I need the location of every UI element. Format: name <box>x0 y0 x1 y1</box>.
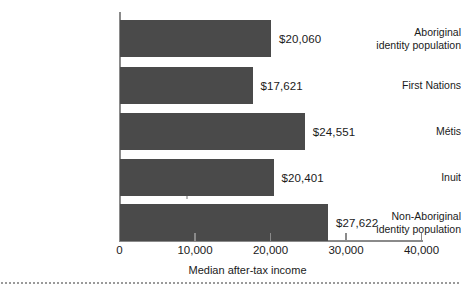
x-axis-tick-mark <box>270 233 272 241</box>
x-axis-title: Median after-tax income <box>0 264 461 276</box>
bar-value-label: $20,060 <box>279 33 321 45</box>
bar <box>120 20 271 57</box>
category-label: Métis <box>349 125 461 138</box>
bar <box>120 204 329 241</box>
x-axis-tick-mark <box>194 233 196 241</box>
category-label: First Nations <box>349 79 461 92</box>
x-axis-title-text: Median after-tax income <box>189 264 307 276</box>
x-axis-tick-label: 40,000 <box>404 244 439 256</box>
bar-value-label: $20,401 <box>282 172 324 184</box>
x-axis-tick-label: 10,000 <box>177 244 212 256</box>
bar <box>120 113 305 150</box>
x-axis-tick-mark <box>421 233 423 241</box>
category-label: Inuit <box>349 171 461 184</box>
x-axis-tick-mark <box>345 233 347 241</box>
bar-value-label: $17,621 <box>261 80 303 92</box>
category-label: Aboriginal identity population <box>349 26 461 51</box>
bar <box>120 67 253 104</box>
x-axis-tick-label: 30,000 <box>328 244 363 256</box>
x-axis-tick-mark <box>119 233 121 241</box>
bar-chart: $20,060$17,621$24,551$20,401$27,622 Abor… <box>0 0 461 294</box>
x-axis-tick-label: 20,000 <box>253 244 288 256</box>
bar <box>120 159 274 196</box>
page-speck <box>186 196 188 199</box>
x-axis-tick-label: 0 <box>116 244 122 256</box>
category-label: Non-Aboriginal identity population <box>349 210 461 235</box>
bottom-dotted-divider <box>0 282 461 284</box>
